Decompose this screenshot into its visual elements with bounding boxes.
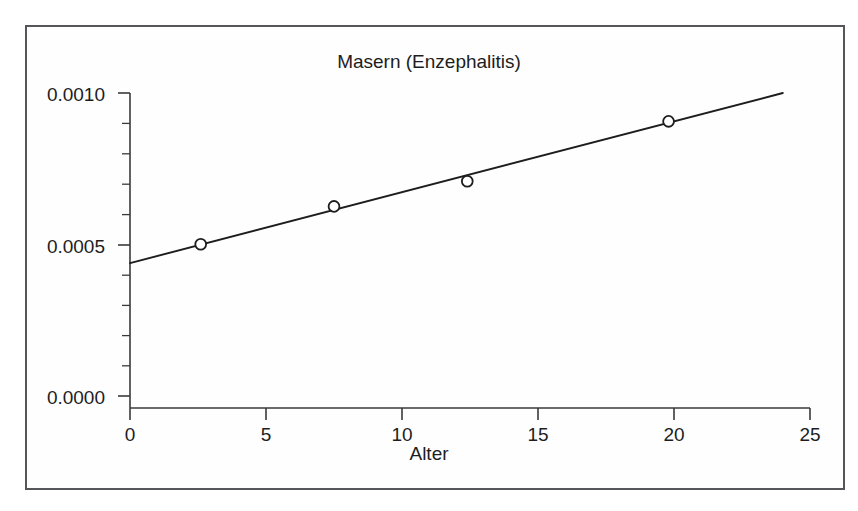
x-tick-label-25: 25	[780, 425, 840, 444]
page-canvas: Masern (Enzephalitis) 0.0010 0.0005 0.00…	[0, 0, 858, 511]
y-tick-label-0.0010: 0.0010	[10, 85, 105, 104]
y-tick-label-0.0005: 0.0005	[10, 237, 105, 256]
x-tick-label-5: 5	[236, 425, 296, 444]
x-tick-label-15: 15	[508, 425, 568, 444]
chart-title: Masern (Enzephalitis)	[0, 52, 858, 71]
x-tick-label-20: 20	[644, 425, 704, 444]
x-tick-label-0: 0	[100, 425, 160, 444]
x-tick-label-10: 10	[372, 425, 432, 444]
x-axis-title: Alter	[0, 444, 858, 463]
y-tick-label-0.0000: 0.0000	[10, 388, 105, 407]
figure-border	[25, 25, 845, 490]
